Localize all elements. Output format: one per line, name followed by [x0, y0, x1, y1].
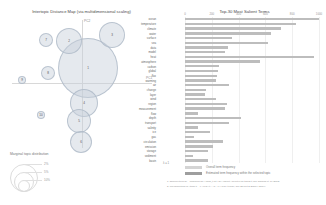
term-label[interactable]: warming [116, 79, 156, 83]
term-label[interactable]: ice [116, 130, 156, 134]
left-panel-title: Intertopic Distance Map (via multidimens… [0, 9, 163, 14]
term-bar-row[interactable]: region [185, 103, 319, 105]
estimated-frequency-swatch [185, 172, 202, 175]
bar-estimated-frequency [185, 98, 216, 100]
estimated-frequency-label: Estimated term frequency within the sele… [206, 171, 270, 175]
term-label[interactable]: model [116, 50, 156, 54]
term-label[interactable]: basin [116, 159, 156, 163]
bar-estimated-frequency [185, 103, 227, 105]
x-tick-label: 400 [236, 12, 241, 16]
term-bar-row[interactable]: carbon [185, 65, 319, 67]
term-label[interactable]: global [116, 69, 156, 73]
term-bar-row[interactable]: model [185, 51, 319, 53]
term-bar-row[interactable]: circulation [185, 140, 319, 142]
term-bar-row[interactable]: water [185, 32, 319, 34]
term-bar-row[interactable]: measurement [185, 107, 319, 109]
term-bar-row[interactable]: basin [185, 159, 319, 161]
bar-estimated-frequency [185, 159, 208, 161]
term-label[interactable]: carbon [116, 65, 156, 69]
term-frequency-barchart[interactable]: 02004006008001000 oceantemperatureclimat… [185, 17, 319, 163]
term-bar-row[interactable]: data [185, 46, 319, 48]
term-bar-row[interactable]: storage [185, 150, 319, 152]
term-label[interactable]: water [116, 32, 156, 36]
topic-bubble-label: 4 [83, 101, 85, 105]
term-bar-row[interactable]: ice [185, 131, 319, 133]
term-bar-row[interactable]: wind [185, 98, 319, 100]
term-bar-row[interactable]: flux [185, 75, 319, 77]
term-label[interactable]: ocean [116, 17, 156, 21]
term-bar-row[interactable]: sediment [185, 155, 319, 157]
x-tick-label: 800 [290, 12, 295, 16]
term-bar-row[interactable]: flow [185, 112, 319, 114]
term-bar-row[interactable]: atmosphere [185, 60, 319, 62]
term-bar-row[interactable]: heat [185, 56, 319, 58]
bar-estimated-frequency [185, 89, 206, 91]
term-label[interactable]: data [116, 46, 156, 50]
term-bar-row[interactable]: climate [185, 27, 319, 29]
topic-bubble-label: 8 [47, 71, 49, 75]
term-bar-row[interactable]: sea [185, 42, 319, 44]
term-label[interactable]: sea [116, 41, 156, 45]
bar-estimated-frequency [185, 131, 210, 133]
x-tick-label: 600 [263, 12, 268, 16]
term-label[interactable]: change [116, 88, 156, 92]
term-bar-row[interactable]: global [185, 70, 319, 72]
footnote-relevance: 2. relevance(term w | topic t) = λ * p(w… [167, 185, 265, 188]
legend-value: 5% [44, 170, 48, 174]
term-bar-row[interactable]: layer [185, 93, 319, 95]
gridline [319, 17, 320, 163]
bar-estimated-frequency [185, 23, 296, 25]
term-label[interactable]: sediment [116, 154, 156, 158]
term-bar-row[interactable]: salinity [185, 126, 319, 128]
x-tick-label: 0 [184, 12, 186, 16]
term-bar-row[interactable]: transport [185, 122, 319, 124]
term-bar-row[interactable]: depth [185, 117, 319, 119]
bar-estimated-frequency [185, 56, 314, 58]
term-bar-row[interactable]: emission [185, 145, 319, 147]
term-bar-row[interactable]: change [185, 89, 319, 91]
legend-value: 2% [44, 162, 48, 166]
term-label[interactable]: depth [116, 116, 156, 120]
term-label[interactable]: flux [116, 74, 156, 78]
term-label[interactable]: surface [116, 36, 156, 40]
term-label[interactable]: layer [116, 93, 156, 97]
bar-estimated-frequency [185, 145, 213, 147]
bar-estimated-frequency [185, 37, 232, 39]
term-label[interactable]: gas [116, 135, 156, 139]
bar-estimated-frequency [185, 155, 193, 157]
term-label[interactable]: atmosphere [116, 60, 156, 64]
term-label[interactable]: air [116, 83, 156, 87]
term-bar-row[interactable]: gas [185, 136, 319, 138]
bar-estimated-frequency [185, 79, 216, 81]
term-label[interactable]: flow [116, 112, 156, 116]
ldavis-visualization: Intertopic Distance Map (via multidimens… [0, 0, 326, 205]
term-label[interactable]: temperature [116, 22, 156, 26]
bar-estimated-frequency [185, 122, 229, 124]
legend-ring [18, 180, 30, 192]
bar-estimated-frequency [185, 32, 271, 34]
term-label[interactable]: heat [116, 55, 156, 59]
term-label[interactable]: transport [116, 121, 156, 125]
term-label[interactable]: measurement [116, 107, 156, 111]
overall-frequency-label: Overall term frequency [206, 165, 235, 169]
term-label[interactable]: wind [116, 97, 156, 101]
term-label[interactable]: climate [116, 27, 156, 31]
term-label[interactable]: region [116, 102, 156, 106]
term-bar-row[interactable]: temperature [185, 23, 319, 25]
term-label[interactable]: storage [116, 149, 156, 153]
term-label[interactable]: circulation [116, 140, 156, 144]
bar-estimated-frequency [185, 51, 225, 53]
topic-bubble-label: 1 [87, 66, 89, 70]
term-bar-row[interactable]: surface [185, 37, 319, 39]
bar-estimated-frequency [185, 60, 260, 62]
term-bar-row[interactable]: ocean [185, 18, 319, 20]
bar-estimated-frequency [185, 136, 194, 138]
salient-terms-panel: Top-30 Most Salient Terms λ = 1 02004006… [163, 0, 326, 205]
term-bar-row[interactable]: air [185, 84, 319, 86]
bar-estimated-frequency [185, 112, 198, 114]
bar-estimated-frequency [185, 84, 229, 86]
term-bar-row[interactable]: warming [185, 79, 319, 81]
bar-estimated-frequency [185, 46, 228, 48]
term-label[interactable]: salinity [116, 126, 156, 130]
term-label[interactable]: emission [116, 145, 156, 149]
